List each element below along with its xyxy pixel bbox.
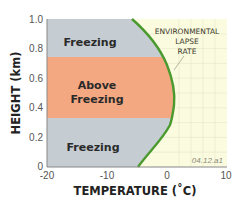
y-tick-0.6: 0.6	[29, 73, 43, 84]
x-tick-0: 0	[164, 170, 170, 181]
figure-id: 04.12.a1	[192, 156, 223, 165]
lapse-rate-chart: Freezing Above Freezing Freezing ENVIRON…	[0, 0, 245, 206]
y-axis-title: HEIGHT (km)	[9, 52, 23, 135]
y-tick-0.8: 0.8	[29, 43, 43, 54]
region-label-freezing-bottom: Freezing	[66, 141, 119, 154]
x-tick--10: -10	[100, 170, 115, 181]
annotation-line-1: ENVIRONMENTAL	[155, 27, 220, 36]
region-label-freezing-top: Freezing	[63, 36, 116, 49]
annotation-line-2: LAPSE	[175, 37, 199, 46]
y-tick-0.4: 0.4	[29, 102, 43, 113]
region-label-freezing-mid: Freezing	[70, 93, 123, 106]
y-tick-0.2: 0.2	[29, 132, 43, 143]
x-axis-title: TEMPERATURE (˚C)	[74, 183, 197, 198]
annotation-line-3: RATE	[178, 47, 197, 56]
x-tick-10: 10	[220, 170, 232, 181]
region-label-above: Above	[78, 79, 117, 92]
x-tick--20: -20	[40, 170, 55, 181]
y-tick-1.0: 1.0	[29, 14, 43, 25]
